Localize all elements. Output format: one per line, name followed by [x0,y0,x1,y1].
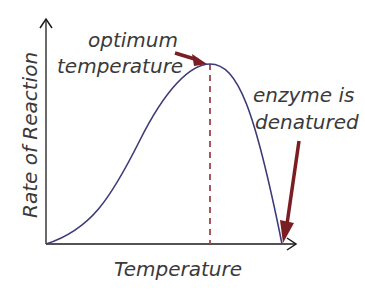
optimum-label-line2: temperature [57,54,183,78]
optimum-label-line1: optimum [88,28,178,52]
x-axis-label: Temperature [114,257,242,281]
denatured-label-line2: denatured [255,110,359,134]
y-axis-label: Rate of Reaction [18,52,42,218]
denatured-label-line1: enzyme is [253,83,354,107]
rate-curve [46,64,282,244]
denatured-arrow-icon [280,141,299,243]
enzyme-rate-diagram: optimum temperature enzyme is denatured … [0,0,365,294]
